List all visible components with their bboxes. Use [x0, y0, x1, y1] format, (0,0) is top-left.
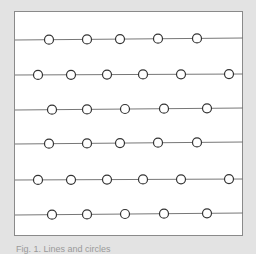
circle-marker [121, 210, 130, 219]
circle-marker [160, 209, 169, 218]
row-2 [15, 70, 243, 80]
row-1 [15, 34, 243, 44]
circle-marker [83, 105, 92, 114]
circle-marker [83, 210, 92, 219]
horizontal-line [15, 74, 243, 75]
circle-marker [45, 139, 54, 148]
circle-marker [139, 70, 148, 79]
circle-marker [193, 138, 202, 147]
circle-marker [177, 70, 186, 79]
circle-marker [34, 70, 43, 79]
row-6 [15, 209, 243, 219]
circle-marker [67, 175, 76, 184]
circle-marker [177, 175, 186, 184]
horizontal-line [15, 179, 243, 180]
circle-marker [48, 105, 57, 114]
circle-marker [103, 175, 112, 184]
circle-marker [48, 210, 57, 219]
circle-marker [154, 138, 163, 147]
row-3 [15, 104, 243, 114]
circle-marker [203, 104, 212, 113]
circle-marker [225, 175, 234, 184]
circle-marker [193, 34, 202, 43]
circle-marker [139, 175, 148, 184]
circle-marker [34, 175, 43, 184]
circle-marker [160, 104, 169, 113]
circle-marker [83, 139, 92, 148]
circle-marker [121, 105, 130, 114]
circle-marker [83, 35, 92, 44]
row-4 [15, 138, 243, 148]
circle-marker [116, 139, 125, 148]
circle-marker [67, 70, 76, 79]
circle-marker [103, 70, 112, 79]
circle-marker [45, 35, 54, 44]
circle-marker [116, 35, 125, 44]
circle-marker [225, 70, 234, 79]
row-5 [15, 175, 243, 185]
figure-caption: Fig. 1. Lines and circles [16, 244, 111, 254]
circle-marker [203, 209, 212, 218]
circle-marker [154, 34, 163, 43]
